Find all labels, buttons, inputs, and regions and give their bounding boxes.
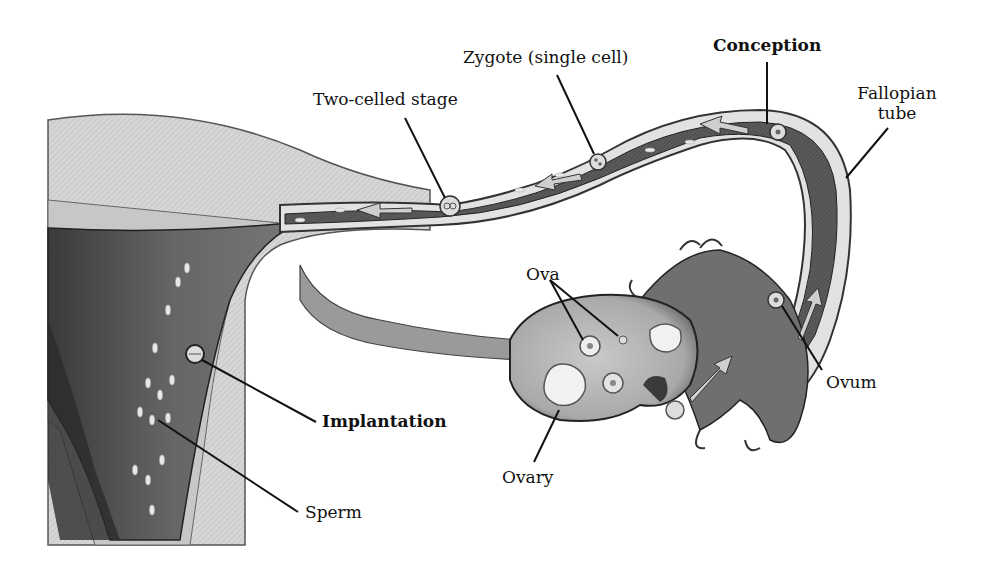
label-zygote: Zygote (single cell) (463, 48, 628, 68)
label-fallopian-tube: Fallopian tube (852, 84, 942, 123)
label-fallopian-tube-line2: tube (852, 104, 942, 124)
label-ovary: Ovary (502, 468, 553, 488)
label-fallopian-tube-line1: Fallopian (852, 84, 942, 104)
label-sperm: Sperm (305, 503, 362, 523)
label-two-celled-stage: Two-celled stage (313, 90, 458, 110)
anatomy-illustration (0, 0, 986, 567)
reproductive-diagram: Two-celled stage Zygote (single cell) Co… (0, 0, 986, 567)
label-implantation: Implantation (322, 412, 447, 432)
label-ovum: Ovum (826, 373, 877, 393)
label-ova: Ova (526, 265, 560, 285)
ovarian-ligament (300, 265, 520, 360)
label-conception: Conception (713, 36, 821, 56)
ovary (510, 295, 698, 421)
